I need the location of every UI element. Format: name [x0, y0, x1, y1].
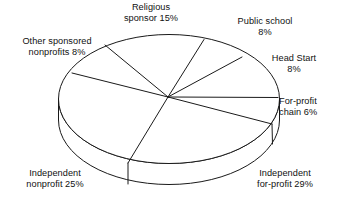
depth-connector-indepforprofit	[272, 124, 273, 144]
slice-label-line1: Independent	[235, 168, 335, 179]
slice-label-independent-nonprofit: Independent nonprofit 25%	[3, 168, 107, 190]
slice-label-line1: Independent	[3, 168, 107, 179]
slice-label-line1: Public school	[211, 16, 319, 27]
slice-label-line1: Religious	[91, 2, 211, 13]
slice-label-line1: Other sponsored	[2, 36, 112, 47]
slice-label-line1: Head Start	[252, 53, 336, 64]
slice-label-line2: for-profit 29%	[235, 179, 335, 190]
slice-label-line2: 8%	[252, 64, 336, 75]
slice-label-religious-sponsor: Religious sponsor 15%	[91, 2, 211, 24]
slice-label-line1: For-profit	[279, 96, 337, 107]
slice-label-line2: nonprofits 8%	[2, 47, 112, 58]
slice-label-independent-for-profit: Independent for-profit 29%	[235, 168, 335, 190]
slice-label-line2: nonprofit 25%	[3, 179, 107, 190]
slice-label-line2: 8%	[211, 27, 319, 38]
slice-label-line2: sponsor 15%	[91, 13, 211, 24]
slice-label-head-start: Head Start 8%	[252, 53, 336, 75]
slice-label-for-profit-chain: For-profit chain 6%	[279, 96, 337, 118]
slice-edge-headstart-forprofitchain	[168, 97, 278, 98]
slice-label-public-school: Public school 8%	[211, 16, 319, 38]
slice-label-other-sponsored-nonprofits: Other sponsored nonprofits 8%	[2, 36, 112, 58]
pie-chart: Religious sponsor 15% Public school 8% H…	[0, 0, 337, 206]
slice-label-line2: chain 6%	[279, 107, 337, 118]
